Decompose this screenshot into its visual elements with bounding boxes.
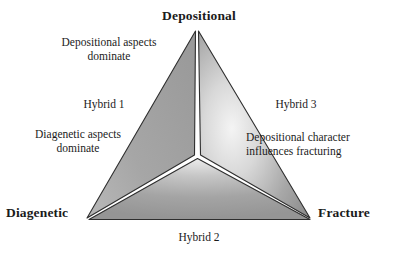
vertex-label-diagenetic: Diagenetic	[6, 205, 68, 221]
edge-label-hybrid-1: Hybrid 1	[58, 98, 150, 112]
vertex-label-fracture: Fracture	[318, 205, 370, 221]
edge-label-hybrid-2: Hybrid 2	[0, 231, 398, 245]
vertex-label-depositional: Depositional	[0, 8, 398, 24]
description-depositional-aspects: Depositional aspects dominate	[46, 36, 172, 63]
description-diagenetic-aspects: Diagenetic aspects dominate	[12, 128, 144, 155]
ternary-triangle-diagram: Depositional Diagenetic Fracture Deposit…	[0, 0, 398, 259]
edge-label-hybrid-3: Hybrid 3	[250, 98, 342, 112]
description-depositional-character: Depositional character influences fractu…	[246, 131, 396, 158]
